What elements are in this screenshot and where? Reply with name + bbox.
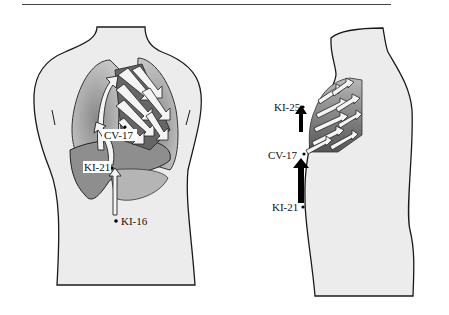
label-ki21-side: KI-21 bbox=[272, 201, 298, 213]
side-torso-outline bbox=[305, 28, 414, 296]
acupuncture-diagram: CV-17 KI-21 KI-16 bbox=[0, 0, 449, 315]
label-ki16-front: KI-16 bbox=[121, 215, 148, 227]
label-cv17-front: CV-17 bbox=[104, 129, 133, 141]
side-view: KI-25 CV-17 KI-21 bbox=[268, 28, 414, 296]
point-ki21-front: KI-21 bbox=[83, 161, 114, 173]
point-ki25-side: KI-25 bbox=[274, 101, 305, 113]
label-ki25-side: KI-25 bbox=[274, 101, 301, 113]
front-view: CV-17 KI-21 KI-16 bbox=[34, 27, 201, 285]
label-ki21-front: KI-21 bbox=[84, 161, 110, 173]
point-cv17-side: CV-17 bbox=[268, 149, 306, 161]
label-cv17-side: CV-17 bbox=[268, 149, 297, 161]
